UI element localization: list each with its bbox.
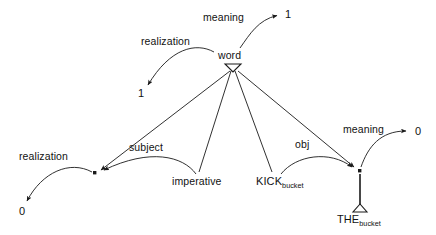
diagram-canvas: word 1 1 0 imperative KICKbucket 0 THEbu… — [0, 0, 436, 235]
edge-label-meaning-right: meaning — [343, 124, 384, 135]
node-label-meaning-0: 0 — [415, 126, 421, 137]
edge-subject-realization-0 — [27, 167, 92, 201]
node-label-word: word — [218, 50, 241, 61]
node-label-imperative: imperative — [172, 176, 221, 187]
obj-junction-dot — [358, 169, 361, 172]
edge-word-realization-1 — [148, 48, 214, 85]
edge-word-imperative — [199, 71, 231, 172]
word-triangle-icon — [225, 64, 241, 72]
node-label-kick-bucket: KICKbucket — [256, 176, 304, 189]
edge-kick-obj — [281, 157, 352, 174]
edge-word-meaning-1 — [240, 16, 277, 49]
edge-label-realization-bottom: realization — [19, 151, 68, 162]
the-bucket-triangle-icon — [353, 204, 367, 212]
node-label-the-bucket: THEbucket — [337, 214, 381, 227]
edge-label-obj: obj — [295, 139, 309, 150]
edge-word-kick-bucket — [235, 71, 272, 172]
edge-label-realization-left: realization — [141, 36, 190, 47]
edge-label-meaning-top: meaning — [203, 12, 244, 23]
diagram-graph — [0, 0, 436, 235]
node-label-realization-1: 1 — [138, 88, 144, 99]
kick-subscript: bucket — [282, 181, 304, 190]
kick-base: KICK — [256, 175, 282, 187]
the-base: THE — [337, 213, 359, 225]
edge-imperative-subject — [104, 157, 196, 174]
the-subscript: bucket — [359, 219, 381, 228]
node-label-meaning-1: 1 — [285, 9, 291, 20]
edge-label-subject: subject — [129, 142, 163, 153]
edge-obj-meaning-0 — [361, 131, 406, 167]
edge-word-subject-dot — [101, 71, 230, 170]
edge-word-obj-dot — [238, 71, 354, 167]
node-label-realization-0: 0 — [19, 206, 25, 217]
subject-junction-dot — [93, 171, 96, 174]
